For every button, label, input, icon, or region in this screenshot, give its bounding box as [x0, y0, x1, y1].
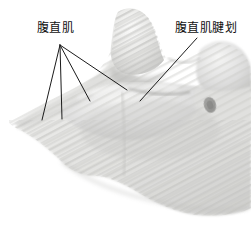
anatomical-figure: 腹直肌 腹直肌腱划	[0, 0, 251, 240]
central-volume-shadow	[80, 100, 220, 160]
label-rectus-abdominis: 腹直肌	[37, 22, 74, 35]
tissue-mass	[0, 0, 251, 240]
anatomy-illustration	[0, 0, 251, 240]
label-tendinous-intersection: 腹直肌腱划	[175, 22, 237, 35]
